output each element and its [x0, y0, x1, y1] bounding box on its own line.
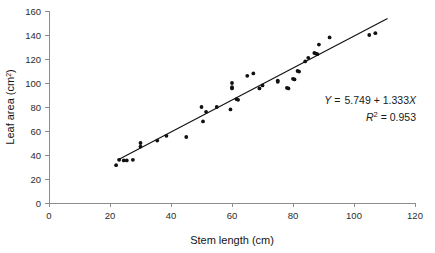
data-point: [367, 33, 371, 37]
x-tick-label: 20: [105, 210, 116, 221]
regression-line: [118, 19, 388, 161]
data-point: [230, 87, 234, 91]
x-tick-label: 120: [407, 210, 423, 221]
y-tick-label: 40: [30, 150, 41, 161]
y-axis-group: 020406080100120140160: [25, 6, 49, 209]
data-point: [373, 31, 377, 35]
x-axis-ticks: 020406080100120: [46, 203, 423, 221]
data-point: [201, 120, 205, 124]
data-point: [184, 135, 188, 139]
regression-equation: Y=5.749 + 1.333X: [324, 94, 417, 106]
y-tick-label: 80: [30, 102, 41, 113]
data-point: [139, 141, 143, 145]
x-tick-label: 60: [227, 210, 238, 221]
y-tick-label: 140: [25, 30, 41, 41]
x-tick-label: 100: [346, 210, 362, 221]
x-tick-label: 40: [166, 210, 177, 221]
scatter-plot: 020406080100120140160 020406080100120 St…: [0, 0, 435, 253]
data-point: [236, 98, 240, 102]
r-squared-annotation: R2= 0.953: [366, 110, 416, 123]
y-tick-label: 160: [25, 6, 41, 17]
data-point: [287, 87, 291, 91]
data-point: [293, 78, 297, 82]
x-tick-label: 80: [288, 210, 299, 221]
y-tick-label: 100: [25, 78, 41, 89]
data-point: [131, 158, 135, 162]
y-tick-label: 0: [36, 198, 41, 209]
data-point: [317, 43, 321, 47]
data-point: [200, 105, 204, 109]
x-tick-label: 0: [46, 210, 51, 221]
y-axis-ticks: 020406080100120140160: [25, 6, 49, 209]
figure-container: 020406080100120140160 020406080100120 St…: [0, 0, 435, 253]
data-point: [276, 80, 280, 84]
data-point: [251, 72, 255, 76]
data-point: [114, 163, 118, 167]
x-axis-group: 020406080100120: [46, 203, 423, 221]
data-point: [245, 74, 249, 78]
data-point: [297, 70, 301, 74]
data-point: [229, 108, 233, 112]
y-tick-label: 120: [25, 54, 41, 65]
y-tick-label: 20: [30, 174, 41, 185]
data-point: [328, 36, 332, 40]
figure-caption-ghost: [28, 243, 418, 252]
y-tick-label: 60: [30, 126, 41, 137]
data-point: [125, 159, 129, 163]
y-axis-title: Leaf area (cm2): [4, 69, 16, 144]
data-point: [230, 81, 234, 85]
